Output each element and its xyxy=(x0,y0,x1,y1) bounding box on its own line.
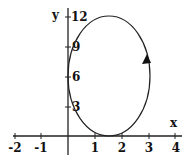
svg-text:4: 4 xyxy=(172,141,180,155)
plot-area: -2 -1 1 2 3 4 3 6 9 12 x y xyxy=(0,0,187,163)
svg-text:12: 12 xyxy=(71,10,88,24)
x-axis-label: x xyxy=(170,116,178,130)
svg-text:2: 2 xyxy=(118,141,126,155)
svg-text:6: 6 xyxy=(72,70,80,84)
y-tick-labels: 3 6 9 12 xyxy=(71,10,88,114)
svg-text:-1: -1 xyxy=(34,141,47,155)
y-axis-label: y xyxy=(51,8,60,22)
svg-text:1: 1 xyxy=(91,141,99,155)
x-tick-labels: -2 -1 1 2 3 4 xyxy=(8,141,180,155)
svg-text:-2: -2 xyxy=(8,141,21,155)
svg-text:3: 3 xyxy=(145,141,153,155)
direction-arrow-icon xyxy=(142,54,151,64)
